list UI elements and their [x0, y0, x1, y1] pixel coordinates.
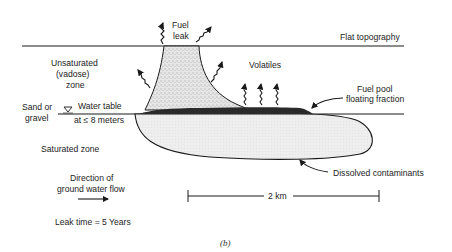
scale-label: 2 km — [268, 191, 287, 201]
figure-caption: (b) — [220, 238, 231, 248]
fuel-pool-label: floating fraction — [346, 94, 405, 104]
water-table-symbol-icon — [64, 107, 72, 112]
vapor-arrow-icon — [196, 27, 211, 42]
vapor-arrow-icon — [138, 70, 150, 88]
unsaturated-zone-label: (vadose) — [56, 69, 90, 79]
leak-time-label: Leak time = 5 Years — [55, 217, 131, 227]
dissolved-contaminant-plume — [135, 114, 372, 159]
volatile-arrow-icon — [260, 84, 262, 105]
flow-direction-label: ground water flow — [57, 184, 126, 194]
unsaturated-zone-label: Unsaturated — [51, 58, 98, 68]
unsaturated-zone-label: zone — [66, 80, 85, 90]
flat-topography-label: Flat topography — [340, 32, 400, 42]
dissolved-leader — [300, 160, 328, 172]
groundwater-contamination-diagram: Fuel leak Flat topography Unsaturated (v… — [0, 0, 452, 252]
saturated-zone-label: Saturated zone — [41, 144, 100, 154]
vapor-arrow-icon — [161, 23, 164, 44]
dissolved-contaminants-label: Dissolved contaminants — [333, 168, 424, 178]
sand-gravel-label: Sand or — [22, 102, 52, 112]
volatiles-label: Volatiles — [249, 60, 281, 70]
fuel-leak-label: Fuel — [172, 20, 189, 30]
water-table-label: Water table — [78, 101, 122, 111]
water-depth-label: at ≤ 8 meters — [74, 115, 124, 125]
sand-gravel-label: gravel — [25, 113, 48, 123]
volatile-arrow-icon — [244, 84, 246, 105]
vapor-arrow-icon — [211, 62, 222, 82]
fuel-pool-label: Fuel pool — [357, 84, 392, 94]
fuel-leak-label: leak — [173, 31, 189, 41]
fuel-pool-leader — [312, 98, 343, 108]
flow-direction-label: Direction of — [70, 173, 114, 183]
volatile-arrow-icon — [276, 84, 278, 105]
fuel-leak-plume — [145, 46, 250, 110]
